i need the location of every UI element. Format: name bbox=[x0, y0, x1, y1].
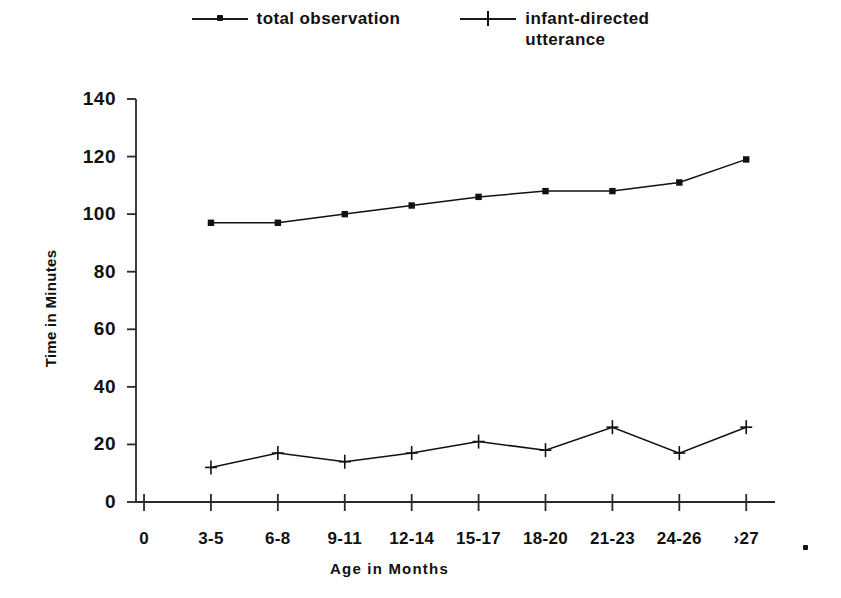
data-point-marker bbox=[208, 220, 214, 226]
y-tick-label: 0 bbox=[46, 491, 116, 513]
line-chart: total observation infant-directed uttera… bbox=[0, 0, 841, 598]
x-tick-label: 12-14 bbox=[389, 529, 434, 549]
plot-area: 020406080100120140 03-56-89-1112-1415-17… bbox=[0, 0, 841, 598]
data-point-marker bbox=[275, 220, 281, 226]
x-tick-label: 9-11 bbox=[328, 529, 362, 549]
y-axis-title: Time in Minutes bbox=[42, 199, 59, 419]
series-line-0 bbox=[211, 159, 746, 222]
y-tick-label: 20 bbox=[46, 433, 116, 455]
x-tick-label: 0 bbox=[139, 529, 149, 549]
data-point-marker bbox=[743, 156, 749, 162]
x-tick-label: 24-26 bbox=[657, 529, 702, 549]
data-point-marker bbox=[676, 179, 682, 185]
y-tick-label: 120 bbox=[46, 146, 116, 168]
x-tick-label: 18-20 bbox=[523, 529, 568, 549]
data-point-marker bbox=[475, 194, 481, 200]
x-tick-label: 21-23 bbox=[590, 529, 635, 549]
data-point-marker bbox=[408, 202, 414, 208]
x-axis-title: Age in Months bbox=[330, 560, 449, 577]
axis-lines bbox=[136, 99, 775, 502]
y-axis-ticks bbox=[127, 99, 136, 502]
x-tick-label: 6-8 bbox=[265, 529, 290, 549]
x-tick-label: ›27 bbox=[733, 529, 758, 549]
y-tick-label: 140 bbox=[46, 88, 116, 110]
data-series-layer bbox=[205, 156, 752, 474]
chart-canvas bbox=[0, 0, 841, 598]
data-point-marker bbox=[342, 211, 348, 217]
x-tick-label: 15-17 bbox=[456, 529, 501, 549]
stray-page-mark bbox=[803, 545, 808, 550]
data-point-marker bbox=[609, 188, 615, 194]
data-point-marker bbox=[542, 188, 548, 194]
x-tick-label: 3-5 bbox=[198, 529, 223, 549]
